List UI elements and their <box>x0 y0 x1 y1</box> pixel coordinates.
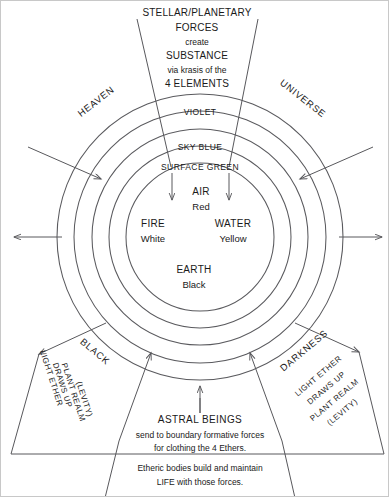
diagram-canvas: STELLAR/PLANETARY FORCES create SUBSTANC… <box>0 0 389 497</box>
frame-line-bottom-right-diag <box>282 441 295 497</box>
element-fire-color: White <box>141 233 165 244</box>
diagram-svg: STELLAR/PLANETARY FORCES create SUBSTANC… <box>1 1 389 497</box>
title-line-stellar-planetary: STELLAR/PLANETARY <box>142 7 251 18</box>
element-earth-name: EARTH <box>176 264 211 275</box>
arrow-inward-bottom-right <box>250 353 282 441</box>
ring-label-violet: VIOLET <box>184 107 217 117</box>
bottom-text-block: ASTRAL BEINGS send to boundary formative… <box>136 414 265 487</box>
bottom-line-etheric-bodies: Etheric bodies build and maintain <box>137 463 262 473</box>
arrow-inward-top-right <box>300 147 373 179</box>
title-line-4-elements: 4 ELEMENTS <box>165 78 229 89</box>
element-fire-name: FIRE <box>141 218 165 229</box>
element-water-name: WATER <box>215 218 252 229</box>
circle-outer <box>57 94 343 380</box>
frame-line-left <box>11 354 39 454</box>
element-earth-color: Black <box>182 279 205 290</box>
title-line-via-krasis: via krasis of the <box>167 65 226 75</box>
frame-line-bottom-left-diag <box>105 441 119 497</box>
title-line-create: create <box>185 37 209 47</box>
side-note-right: LIGHT ETHER DRAWS UP PLANT REALM (LEVITY… <box>293 354 360 427</box>
title-line-forces: FORCES <box>176 22 219 33</box>
ring-labels: VIOLET SKY BLUE SURFACE GREEN <box>161 107 239 172</box>
bottom-line-life-with-forces: LIFE with those forces. <box>157 477 243 487</box>
element-labels: AIR Red FIRE White WATER Yellow EARTH Bl… <box>141 186 251 290</box>
concentric-circles <box>57 94 343 380</box>
side-note-left: LIGHT ETHER DRAWS UP PLANT REALM (LEVITY… <box>38 349 94 422</box>
corner-label-heaven: HEAVEN <box>75 84 116 119</box>
cone-line-right <box>229 19 258 167</box>
circle-ring-surfacegreen-inner <box>109 146 291 328</box>
frame-line-right <box>359 352 384 454</box>
bottom-line-send-to-boundary: send to boundary formative forces <box>136 430 265 440</box>
corner-label-universe: UNIVERSE <box>278 77 328 120</box>
arrow-inward-top-left <box>28 147 101 179</box>
corner-label-black: BLACK <box>78 336 112 367</box>
ring-label-surface-green: SURFACE GREEN <box>161 162 239 172</box>
bottom-line-astral-beings: ASTRAL BEINGS <box>158 414 242 425</box>
ring-label-sky-blue: SKY BLUE <box>178 142 223 152</box>
title-line-substance: SUBSTANCE <box>166 50 228 61</box>
cone-line-left <box>137 19 171 167</box>
bottom-line-for-clothing: for clothing the 4 Ethers. <box>154 443 246 453</box>
title-block: STELLAR/PLANETARY FORCES create SUBSTANC… <box>142 7 251 89</box>
element-air-color: Red <box>192 201 209 212</box>
element-water-color: Yellow <box>219 233 246 244</box>
element-air-name: AIR <box>192 186 210 197</box>
arrow-inward-bottom-left <box>119 353 151 441</box>
